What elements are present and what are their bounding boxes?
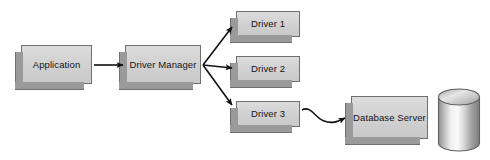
node-driver-1-label: Driver 1 (251, 19, 285, 29)
node-driver-3[interactable]: Driver 3 (236, 101, 300, 127)
edge-driver-manager-to-driver-1 (203, 27, 232, 65)
node-database-server[interactable]: Database Server (351, 96, 428, 139)
node-database-server-label: Database Server (353, 113, 426, 123)
node-driver-1[interactable]: Driver 1 (236, 11, 300, 37)
edge-driver-manager-to-driver-2 (203, 65, 232, 68)
node-application[interactable]: Application (21, 45, 92, 84)
node-driver-2[interactable]: Driver 2 (236, 56, 300, 82)
node-application-label: Application (33, 60, 81, 70)
node-driver-manager[interactable]: Driver Manager (125, 45, 201, 84)
edge-driver-3-to-database-server (302, 109, 345, 123)
node-driver-manager-label: Driver Manager (130, 60, 197, 70)
diagram-canvas: Application Driver Manager Driver 1 Driv… (0, 0, 490, 160)
database-cylinder-icon[interactable] (437, 87, 481, 153)
node-driver-3-label: Driver 3 (251, 109, 285, 119)
edge-driver-manager-to-driver-3 (203, 65, 232, 105)
node-driver-2-label: Driver 2 (251, 64, 285, 74)
cylinder-shape (437, 87, 481, 153)
